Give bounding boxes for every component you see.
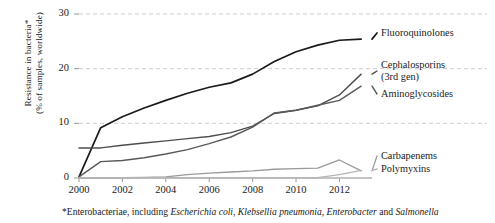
x-tick-label: 2000 xyxy=(59,184,99,195)
chart-container: Resistance in bacteria* (% of samples, w… xyxy=(0,0,495,223)
series-line-polymyxins xyxy=(79,170,361,177)
y-tick-label: 10 xyxy=(47,116,69,127)
series-label-line2: (3rd gen) xyxy=(381,71,445,83)
y-axis-title-line2: (% of samples, worldwide) xyxy=(34,0,45,143)
series-label-polymyxins: Polymyxins xyxy=(381,163,430,175)
leader-line xyxy=(372,71,377,74)
leader-line xyxy=(372,86,377,94)
x-tick-label: 2004 xyxy=(146,184,186,195)
series-label-aminoglycosides: Aminoglycosides xyxy=(381,88,453,100)
legend-leader-lines xyxy=(372,33,377,171)
series-label-carbapenems: Carbapenems xyxy=(381,150,437,162)
y-tick-label: 20 xyxy=(47,62,69,73)
series-label-cephalosporins-3rd-gen: Cephalosporins(3rd gen) xyxy=(381,59,445,82)
footnote-species-1: Escherichia coli xyxy=(170,206,233,217)
x-tick-label: 2008 xyxy=(233,184,273,195)
series-label-fluoroquinolones: Fluoroquinolones xyxy=(381,27,454,39)
y-axis-title-line1: Resistance in bacteria* xyxy=(23,0,34,143)
x-tick-label: 2010 xyxy=(276,184,316,195)
footnote-sep-3: and xyxy=(377,206,396,217)
y-tick-label: 30 xyxy=(47,7,69,18)
series-lines xyxy=(79,39,361,178)
series-line-aminoglycosides xyxy=(79,86,361,177)
x-tick-label: 2006 xyxy=(189,184,229,195)
footnote-species-3: Enterobacter xyxy=(327,206,377,217)
footnote-prefix: *Enterobacteriae, including xyxy=(62,206,170,217)
leader-line xyxy=(372,33,377,39)
footnote-species-2: Klebsellia pneumonia xyxy=(238,206,322,217)
x-axis-tick-marks xyxy=(74,14,339,182)
series-line-carbapenems xyxy=(79,160,361,178)
series-line-fluoroquinolones xyxy=(79,39,361,177)
series-label-line1: Cephalosporins xyxy=(381,59,445,71)
y-axis-title: Resistance in bacteria* (% of samples, w… xyxy=(23,0,45,143)
y-tick-label: 0 xyxy=(47,171,69,182)
x-tick-label: 2002 xyxy=(102,184,142,195)
x-tick-label: 2012 xyxy=(319,184,359,195)
footnote: *Enterobacteriae, including Escherichia … xyxy=(62,206,439,218)
footnote-species-4: Salmonella xyxy=(395,206,438,217)
